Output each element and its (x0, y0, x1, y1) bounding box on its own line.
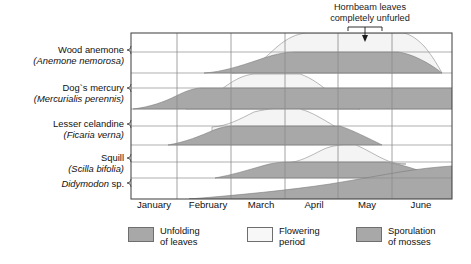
legend-line-2-0: of leaves (160, 236, 198, 247)
y-axis-ticks (127, 46, 131, 187)
x-label-june: June (411, 199, 432, 210)
y-axis-labels: Wood anemone (Anemone nemorosa) Dog`s me… (0, 30, 124, 205)
chart-legend: Unfolding of leaves Flowering period Spo… (128, 226, 458, 260)
legend-label-sporulation-of-mosses: Sporulation of mosses (388, 226, 435, 247)
chart-figure: Hornbeam leaves completely unfurled Wood… (0, 0, 471, 264)
legend-line-2-1: period (279, 236, 305, 247)
y-label-common-3: Squill (68, 152, 124, 163)
legend-line-2-2: of mosses (388, 236, 431, 247)
annotation-line-1: Hornbeam leaves (300, 2, 440, 13)
y-label-wood-anemone: Wood anemone (Anemone nemorosa) (33, 44, 124, 66)
legend-line-1-2: Sporulation (388, 225, 435, 236)
x-label-may: May (358, 199, 376, 210)
y-label-squill: Squill (Scilla bifolia) (68, 152, 124, 174)
y-label-common-1: Dog`s mercury (34, 82, 124, 93)
y-label-scientific-0: (Anemone nemorosa) (33, 55, 124, 66)
legend-item-flowering-period: Flowering period (247, 226, 320, 247)
y-label-didymodon: Didymodon sp. (61, 178, 124, 189)
y-label-suffix-4: sp. (109, 178, 124, 189)
x-label-april: April (304, 199, 323, 210)
y-label-scientific-4: Didymodon (61, 178, 108, 189)
y-label-lesser-celandine: Lesser celandine (Ficaria verna) (53, 118, 124, 140)
y-label-dogs-mercury: Dog`s mercury (Mercurialis perennis) (34, 82, 124, 104)
legend-swatch-unfolding-of-leaves (128, 227, 154, 242)
legend-label-unfolding-of-leaves: Unfolding of leaves (160, 226, 200, 247)
y-label-common-2: Lesser celandine (53, 118, 124, 129)
y-label-common-0: Wood anemone (33, 44, 124, 55)
legend-item-sporulation-of-mosses: Sporulation of mosses (356, 226, 435, 247)
annotation-label: Hornbeam leaves completely unfurled (300, 2, 440, 24)
legend-swatch-sporulation-of-mosses (356, 227, 382, 242)
y-label-scientific-1: (Mercurialis perennis) (34, 93, 124, 104)
x-label-february: February (189, 199, 227, 210)
legend-swatch-flowering-period (247, 227, 273, 242)
legend-line-1-0: Unfolding (160, 225, 200, 236)
annotation-line-2: completely unfurled (300, 13, 440, 24)
legend-line-1-1: Flowering (279, 225, 320, 236)
y-label-scientific-3: (Scilla bifolia) (68, 163, 124, 174)
x-axis-labels: January February March April May June (124, 199, 460, 217)
y-label-didymodon-text: Didymodon sp. (61, 178, 124, 189)
x-label-january: January (137, 199, 171, 210)
x-label-march: March (248, 199, 275, 210)
legend-item-unfolding-of-leaves: Unfolding of leaves (128, 226, 200, 247)
y-label-scientific-2: (Ficaria verna) (53, 129, 124, 140)
legend-label-flowering-period: Flowering period (279, 226, 320, 247)
